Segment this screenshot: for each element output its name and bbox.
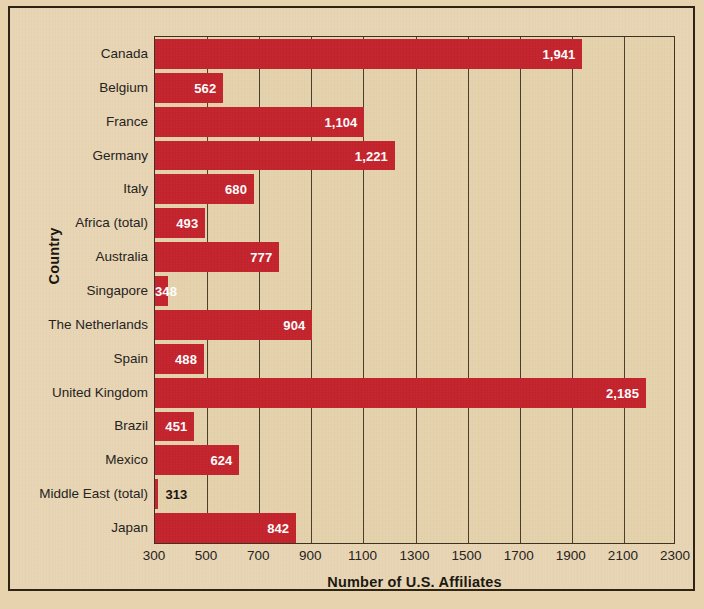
bar-row[interactable]: 2,185 — [155, 378, 674, 408]
y-axis-title: Country — [46, 196, 62, 316]
bar-row[interactable]: 1,221 — [155, 141, 674, 171]
x-tick-label: 1300 — [399, 548, 429, 563]
bar-value-label: 624 — [155, 453, 232, 468]
category-label: France — [24, 113, 148, 128]
x-tick-label: 700 — [247, 548, 270, 563]
bar-row[interactable]: 348 — [155, 276, 674, 306]
x-tick-label: 2300 — [660, 548, 690, 563]
chart-outer-frame: 1,9415621,1041,2216804937773489044882,18… — [8, 6, 695, 591]
bar-row[interactable]: 493 — [155, 208, 674, 238]
category-label: Brazil — [24, 418, 148, 433]
bar-value-label: 562 — [155, 80, 216, 95]
x-tick-label: 1100 — [348, 548, 377, 563]
bars-layer: 1,9415621,1041,2216804937773489044882,18… — [155, 37, 674, 543]
bar-row[interactable]: 488 — [155, 344, 674, 374]
category-label: Mexico — [24, 452, 148, 467]
x-tick-label: 1500 — [452, 548, 482, 563]
plot-area: 1,9415621,1041,2216804937773489044882,18… — [154, 36, 675, 544]
category-label: Italy — [24, 181, 148, 196]
bar-value-label: 488 — [155, 351, 197, 366]
category-label: Belgium — [24, 79, 148, 94]
bar-value-label: 348 — [155, 283, 165, 298]
x-tick-label: 1900 — [556, 548, 586, 563]
bar-row[interactable]: 680 — [155, 174, 674, 204]
bar-value-label: 680 — [155, 182, 247, 197]
x-axis-title: Number of U.S. Affiliates — [154, 574, 675, 590]
chart-figure: 1,9415621,1041,2216804937773489044882,18… — [0, 0, 704, 609]
bar-row[interactable]: 313 — [155, 479, 674, 509]
bar-row[interactable]: 777 — [155, 242, 674, 272]
bar-row[interactable]: 624 — [155, 445, 674, 475]
category-label: Spain — [24, 350, 148, 365]
bar-value-label: 451 — [155, 419, 187, 434]
bar[interactable] — [155, 479, 158, 509]
bar-value-label: 493 — [155, 216, 198, 231]
bar-row[interactable]: 1,941 — [155, 39, 674, 69]
category-label: The Netherlands — [24, 316, 148, 331]
bar-value-label: 313 — [165, 487, 187, 502]
bar-value-label: 1,104 — [155, 114, 357, 129]
bar-value-label: 1,221 — [155, 148, 388, 163]
bar-value-label: 1,941 — [155, 46, 575, 61]
category-axis-labels: CanadaBelgiumFranceGermanyItalyAfrica (t… — [24, 36, 148, 544]
x-tick-label: 500 — [195, 548, 218, 563]
category-label: Singapore — [24, 283, 148, 298]
bar-row[interactable]: 1,104 — [155, 107, 674, 137]
category-label: Canada — [24, 45, 148, 60]
bar-value-label: 842 — [155, 521, 289, 536]
category-label: Germany — [24, 147, 148, 162]
category-label: Japan — [24, 520, 148, 535]
bar-row[interactable]: 451 — [155, 412, 674, 442]
x-tick-label: 900 — [299, 548, 322, 563]
category-label: Middle East (total) — [24, 486, 148, 501]
bar-value-label: 777 — [155, 250, 272, 265]
x-tick-label: 2100 — [608, 548, 638, 563]
bar-row[interactable]: 904 — [155, 310, 674, 340]
bar-value-label: 904 — [155, 317, 305, 332]
x-tick-label: 1700 — [504, 548, 534, 563]
bar-value-label: 2,185 — [155, 385, 639, 400]
bar-row[interactable]: 842 — [155, 513, 674, 543]
category-label: United Kingdom — [24, 384, 148, 399]
x-axis-tick-labels: 3005007009001100130015001700190021002300 — [154, 548, 675, 570]
x-tick-label: 300 — [143, 548, 166, 563]
category-label: Africa (total) — [24, 215, 148, 230]
category-label: Australia — [24, 249, 148, 264]
bar-row[interactable]: 562 — [155, 73, 674, 103]
